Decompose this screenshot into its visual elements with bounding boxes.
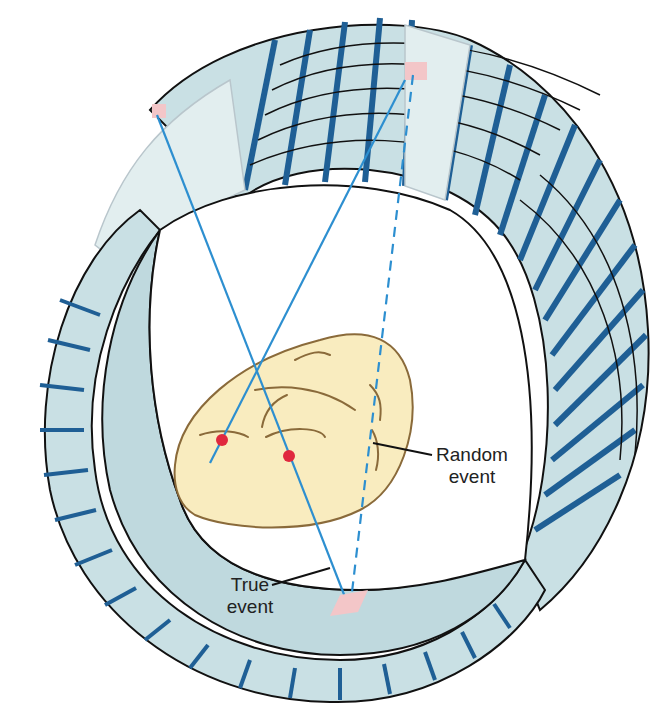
- pet-scanner-diagram: Random event True event: [0, 0, 661, 722]
- annihilation-point-2: [283, 450, 295, 462]
- random-event-label-line2: event: [432, 466, 512, 488]
- random-event-label-line1: Random: [432, 444, 512, 466]
- hit-detector-top: [405, 62, 427, 80]
- true-event-label: True event: [222, 574, 278, 618]
- hit-detector-left: [152, 104, 166, 118]
- true-event-label-line1: True: [222, 574, 278, 596]
- annihilation-point-1: [216, 434, 228, 446]
- random-event-label: Random event: [432, 444, 512, 488]
- pet-scanner-illustration: [0, 0, 661, 722]
- true-event-label-line2: event: [222, 596, 278, 618]
